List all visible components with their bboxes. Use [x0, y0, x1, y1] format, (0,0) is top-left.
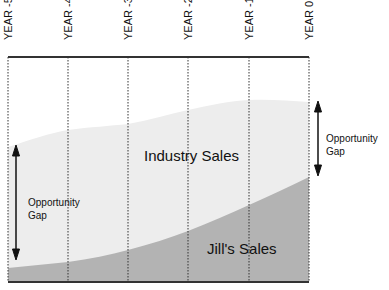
- industry-sales-label: Industry Sales: [144, 147, 239, 164]
- left-opportunity-gap-label: Opportunity Gap: [28, 196, 80, 222]
- x-tick-label: YEAR -4: [61, 0, 75, 52]
- x-tick-label: YEAR -3: [121, 0, 135, 52]
- x-tick-label: YEAR -2: [181, 0, 195, 52]
- jills-sales-label: Jill's Sales: [207, 240, 277, 257]
- right-opportunity-gap-label: Opportunity Gap: [326, 132, 378, 158]
- x-tick-label: YEAR 0: [302, 0, 316, 52]
- x-tick-label: YEAR -1: [242, 0, 256, 52]
- right-gap-arrow-icon: [315, 101, 322, 176]
- x-tick-label: YEAR -5: [1, 0, 15, 52]
